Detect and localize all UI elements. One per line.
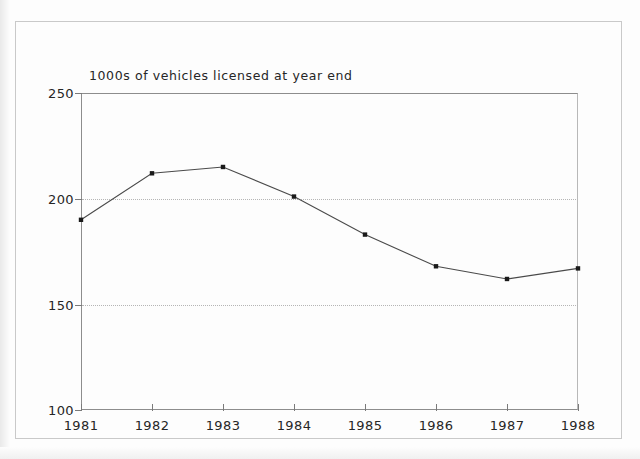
data-series-layer (0, 0, 640, 459)
data-point-1987 (505, 277, 509, 281)
line-chart: 1000s of vehicles licensed at year end 2… (0, 0, 640, 459)
data-point-1988 (576, 266, 580, 270)
data-point-1986 (434, 264, 438, 268)
data-point-1983 (221, 165, 225, 169)
data-point-1981 (79, 218, 83, 222)
data-point-1982 (150, 171, 154, 175)
data-point-1985 (363, 232, 367, 236)
series-line (81, 167, 578, 279)
series-markers (79, 165, 580, 281)
data-point-1984 (292, 194, 296, 198)
